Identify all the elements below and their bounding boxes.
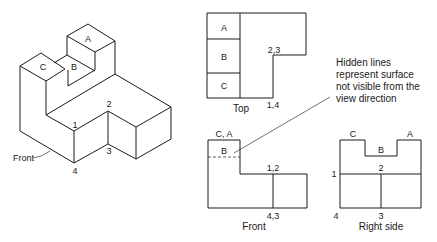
svg-text:Hidden lines: Hidden lines — [336, 57, 391, 68]
top-vertex-14: 1,4 — [267, 100, 280, 110]
right-side-view: C B A 1 2 3 4 Right side — [331, 129, 421, 232]
right-vertex-4: 4 — [333, 211, 338, 221]
front-label-43: 4,3 — [267, 211, 280, 221]
orthographic-projection-diagram: A B C 1 2 3 4 Front A B C 2,3 1,4 Top Hi… — [0, 0, 437, 242]
top-caption: Top — [233, 103, 250, 114]
right-vertex-3: 3 — [378, 211, 383, 221]
svg-text:not visible from the: not visible from the — [336, 81, 420, 92]
top-view: A B C 2,3 1,4 Top — [207, 13, 306, 114]
front-label-ca: C, A — [215, 129, 232, 139]
top-cell-c: C — [221, 81, 228, 91]
top-cell-a: A — [221, 23, 227, 33]
svg-text:represent surface: represent surface — [336, 69, 414, 80]
right-vertex-1: 1 — [331, 169, 336, 179]
isometric-view: A B C 1 2 3 4 Front — [13, 24, 171, 176]
front-caption: Front — [242, 221, 266, 232]
top-vertex-23: 2,3 — [268, 45, 281, 55]
vertex-3: 3 — [106, 146, 111, 156]
right-label-b: B — [378, 145, 384, 155]
vertex-2: 2 — [106, 99, 111, 109]
svg-text:view direction: view direction — [336, 93, 397, 104]
label-b: B — [71, 62, 77, 72]
right-label-a: A — [407, 129, 413, 139]
label-c: C — [40, 62, 47, 72]
right-vertex-2: 2 — [378, 163, 383, 173]
front-label-12: 1,2 — [267, 163, 280, 173]
right-caption: Right side — [359, 221, 404, 232]
front-label-b: B — [221, 146, 227, 156]
vertex-1: 1 — [72, 120, 77, 130]
label-a: A — [85, 34, 91, 44]
front-view: C, A B 1,2 4,3 Front — [208, 129, 307, 232]
hidden-lines-note: Hidden lines represent surface not visib… — [234, 57, 420, 153]
top-cell-b: B — [221, 52, 227, 62]
vertex-4: 4 — [72, 166, 77, 176]
front-label: Front — [13, 153, 35, 163]
right-label-c: C — [350, 129, 357, 139]
